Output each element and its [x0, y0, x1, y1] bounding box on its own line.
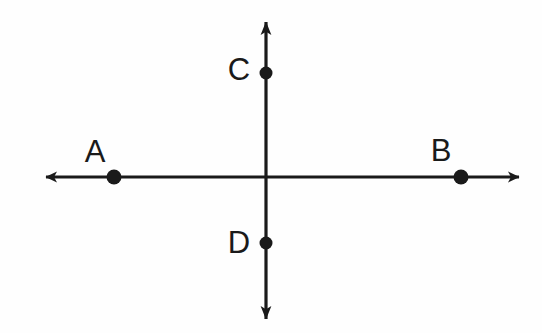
point-c-label: C	[228, 52, 250, 87]
point-b-dot	[454, 170, 469, 185]
point-d-label: D	[228, 225, 250, 260]
point-b-label: B	[431, 133, 452, 168]
diagram-canvas: A B C D	[0, 0, 542, 333]
point-c-dot	[260, 67, 273, 80]
intersecting-lines-figure: A B C D	[0, 0, 542, 333]
point-a-label: A	[85, 134, 106, 169]
point-d-dot	[260, 237, 273, 250]
point-a-dot	[107, 170, 122, 185]
